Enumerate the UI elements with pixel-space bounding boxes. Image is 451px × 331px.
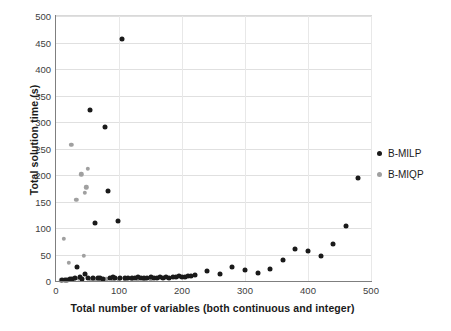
- data-point: [79, 172, 83, 176]
- data-point: [61, 236, 65, 240]
- gridline-y-400: [56, 69, 371, 70]
- x-tick-label-200: 200: [162, 285, 202, 296]
- data-point: [75, 265, 80, 270]
- y-tick-label-300: 300: [5, 117, 51, 128]
- data-point: [268, 267, 273, 272]
- legend-item-b-miqp: B-MIQP: [377, 164, 451, 185]
- gridline-y-150: [56, 202, 371, 203]
- data-point: [69, 143, 73, 147]
- x-tick-label-300: 300: [225, 285, 265, 296]
- scatter-chart-figure: Total solution time (s) 0501001502002503…: [0, 0, 451, 331]
- data-point: [84, 185, 88, 189]
- gridline-x-200: [182, 16, 183, 281]
- plot-area: [56, 16, 371, 281]
- y-tick-label-50: 50: [5, 249, 51, 260]
- y-tick-label-400: 400: [5, 64, 51, 75]
- y-tick-label-500: 500: [5, 11, 51, 22]
- x-axis-line: [55, 281, 372, 282]
- legend-item-b-milp: B-MILP: [377, 143, 451, 164]
- gridline-y-250: [56, 149, 371, 150]
- x-tick-label-100: 100: [99, 285, 139, 296]
- data-point: [318, 254, 323, 259]
- data-point: [93, 221, 98, 226]
- legend-marker-icon-b-miqp: [377, 172, 382, 177]
- legend-marker-icon-b-milp: [377, 151, 382, 156]
- gridline-y-500: [56, 16, 371, 17]
- data-point: [83, 191, 87, 195]
- y-tick-label-150: 150: [5, 196, 51, 207]
- x-axis-title: Total number of variables (both continuo…: [40, 302, 385, 314]
- data-point: [82, 253, 86, 257]
- gridline-x-400: [308, 16, 309, 281]
- x-tick-label-400: 400: [288, 285, 328, 296]
- data-point: [255, 270, 260, 275]
- data-point: [230, 265, 235, 270]
- y-axis-tick-labels: 050100150200250300350400450500: [0, 0, 51, 331]
- legend-label-b-miqp: B-MIQP: [388, 169, 424, 180]
- x-tick-label-500: 500: [351, 285, 391, 296]
- data-point: [343, 224, 348, 229]
- x-tick-label-0: 0: [36, 285, 76, 296]
- chart-legend: B-MILP B-MIQP: [377, 143, 451, 185]
- gridline-y-50: [56, 255, 371, 256]
- data-point: [356, 175, 361, 180]
- data-point: [205, 268, 210, 273]
- data-point: [306, 248, 311, 253]
- data-point: [293, 246, 298, 251]
- data-point: [243, 268, 248, 273]
- gridline-x-300: [245, 16, 246, 281]
- gridline-y-350: [56, 96, 371, 97]
- data-point: [105, 188, 110, 193]
- data-point: [331, 242, 336, 247]
- gridline-y-200: [56, 175, 371, 176]
- gridline-y-450: [56, 43, 371, 44]
- data-point: [66, 261, 70, 265]
- y-tick-label-250: 250: [5, 143, 51, 154]
- data-point: [120, 37, 125, 42]
- gridline-y-100: [56, 228, 371, 229]
- y-tick-label-450: 450: [5, 37, 51, 48]
- data-point: [88, 107, 93, 112]
- data-point: [85, 166, 89, 170]
- gridline-y-300: [56, 122, 371, 123]
- y-axis-line: [55, 15, 56, 282]
- y-tick-label-200: 200: [5, 170, 51, 181]
- gridline-x-100: [119, 16, 120, 281]
- y-tick-label-350: 350: [5, 90, 51, 101]
- data-point: [217, 272, 222, 277]
- data-point: [192, 273, 197, 278]
- gridline-x-500: [371, 16, 372, 281]
- data-point: [280, 258, 285, 263]
- y-tick-label-100: 100: [5, 223, 51, 234]
- legend-label-b-milp: B-MILP: [388, 148, 421, 159]
- data-point: [103, 124, 108, 129]
- data-point: [115, 219, 120, 224]
